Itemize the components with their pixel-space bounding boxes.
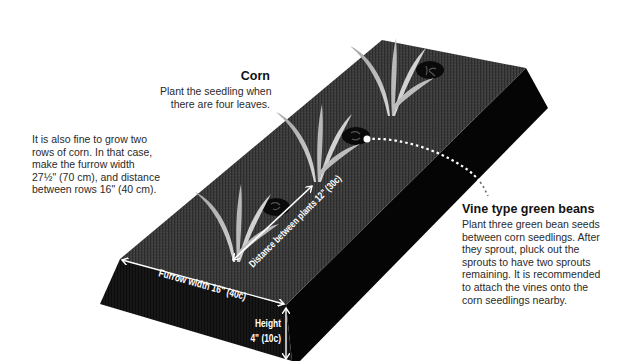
corn-note-line: there are four leaves. [160,98,270,111]
green-beans-note-line: to attach the vines onto the [462,281,622,294]
height-label: Height [255,317,282,329]
two-rows-note-line: 27½" (70 cm), and distance [32,171,167,184]
green-beans-note-line: Plant three green bean seeds [462,218,622,231]
corn-title: Corn [160,69,270,84]
height-value: 4" (10c) [250,332,281,344]
two-rows-note-line: between rows 16" (40 cm). [32,183,167,196]
green-beans-note-line: sprouts to have two sprouts [462,256,622,269]
two-rows-note-line: It is also fine to grow two [32,133,167,146]
companion-planting-diagram: Distance between plants 12" (30c) Furrow… [0,0,628,363]
green-beans-note-line: between corn seedlings. After [462,231,622,244]
bean-seed-icon [416,61,444,79]
green-beans-note-line: they sprout, pluck out the [462,243,622,256]
two-rows-note: It is also fine to grow two rows of corn… [32,133,167,196]
green-beans-note-line: remaining. It is recommended [462,268,622,281]
two-rows-note-line: make the furrow width [32,158,167,171]
green-beans-note: Vine type green beans Plant three green … [462,202,622,306]
corn-note-line: Plant the seedling when [160,85,270,98]
green-beans-title: Vine type green beans [462,202,622,217]
green-beans-note-line: corn seedlings nearby. [462,294,622,307]
corn-note: Corn Plant the seedling when there are f… [160,69,270,110]
two-rows-note-line: rows of corn. In that case, [32,146,167,159]
